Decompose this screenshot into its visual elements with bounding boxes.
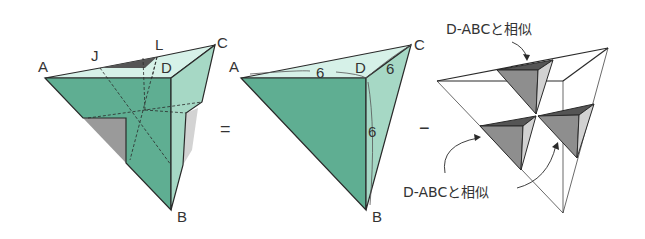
label-L: L	[155, 36, 163, 53]
right-pyramids: D-ABCと相似 D-ABCと相似	[403, 21, 608, 213]
middle-pyramid: 6 6 6 A D C B	[229, 36, 425, 225]
minus-sign: −	[419, 118, 430, 138]
label-C-mid: C	[414, 36, 425, 53]
edge-DC-length: 6	[386, 60, 394, 77]
small-pyramid-top	[497, 60, 553, 114]
edge-DB-length: 6	[368, 123, 376, 140]
label-B-mid: B	[372, 208, 382, 225]
small-pyramid-left	[480, 116, 536, 170]
label-C-left: C	[217, 34, 228, 51]
label-J: J	[91, 47, 99, 64]
annotation-bottom: D-ABCと相似	[403, 184, 489, 200]
diagram-canvas: A J L D C B = 6 6 6 A D C B −	[0, 0, 645, 239]
label-B-left: B	[177, 208, 187, 225]
equals-sign: =	[220, 119, 231, 139]
label-D-left: D	[161, 59, 172, 76]
front-face	[241, 78, 366, 210]
label-A-left: A	[38, 58, 48, 75]
left-solid: A J L D C B	[38, 34, 228, 225]
label-D-mid: D	[355, 59, 366, 76]
notch-shadow	[83, 118, 126, 163]
label-A-mid: A	[229, 58, 239, 75]
annotation-top: D-ABCと相似	[446, 21, 532, 37]
edge-DA-length: 6	[316, 64, 324, 81]
small-pyramid-right	[538, 104, 594, 158]
